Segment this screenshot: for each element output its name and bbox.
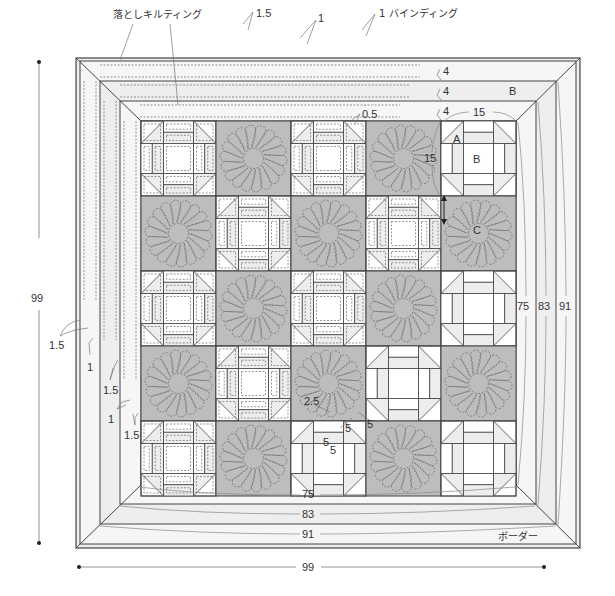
quilt-block (291, 121, 366, 196)
dim-quilt-5-a: 5 (345, 422, 351, 434)
dim-left-1-5-a: 1.5 (49, 339, 64, 351)
quilt-block (216, 271, 291, 346)
dim-left-1-b: 1 (108, 413, 114, 425)
dim-quilt-5-d: 5 (367, 418, 373, 430)
dim-inner-83: 83 (302, 508, 314, 520)
dim-right-83: 83 (538, 300, 550, 312)
quilt-block (216, 421, 291, 496)
dim-inner-91: 91 (302, 528, 314, 540)
border-label: ボーダー (498, 530, 538, 542)
dim-left-1-5-b: 1.5 (103, 384, 118, 396)
quilt-block (141, 346, 216, 421)
quilt-block (366, 421, 441, 496)
quilt-block (291, 271, 366, 346)
quilt-block (216, 346, 291, 421)
dim-border-width-1: 4 (443, 65, 449, 77)
dim-block-height: 15 (424, 152, 436, 164)
dim-top-1: 1 (318, 12, 324, 24)
quilt-block (216, 196, 291, 271)
ditch-quilting-label: 落としキルティング (113, 8, 202, 20)
dim-right-75: 75 (517, 300, 529, 312)
quilt-block (216, 121, 291, 196)
quilt-block (441, 271, 516, 346)
dim-overall-width: 99 (302, 561, 314, 573)
quilt-block (291, 421, 366, 496)
quilt-diagram: 落としキルティング 1.5 1 1 バインディング 4 4 4 B 0.5 15… (0, 0, 615, 596)
dim-border-width-2: 4 (443, 85, 449, 97)
quilt-block (366, 196, 441, 271)
quilt-block (441, 421, 516, 496)
dim-quilt-5-b: 5 (323, 436, 329, 448)
quilt-block (141, 421, 216, 496)
piece-a-label: A (453, 133, 461, 145)
dim-block-width: 15 (473, 106, 485, 118)
border-b-label: B (509, 85, 516, 97)
dim-quilt-5-c: 5 (330, 444, 336, 456)
piece-c-label: C (473, 224, 481, 236)
quilt-block (141, 121, 216, 196)
dim-left-1-5-c: 1.5 (124, 429, 139, 441)
dim-overall-height: 99 (31, 292, 43, 304)
quilt-block (291, 196, 366, 271)
quilt-block (141, 196, 216, 271)
dim-seam-0-5: 0.5 (362, 108, 377, 120)
piece-b-label: B (473, 153, 480, 165)
binding-label: 1 バインディング (379, 7, 458, 19)
quilt-block (441, 346, 516, 421)
quilt-block (291, 346, 366, 421)
dim-right-91: 91 (559, 300, 571, 312)
dim-border-width-3: 4 (443, 105, 449, 117)
dim-top-1-5: 1.5 (256, 7, 271, 19)
quilt-block (366, 271, 441, 346)
dim-quilt-2-5: 2.5 (304, 395, 319, 407)
dim-inner-75: 75 (302, 488, 314, 500)
quilt-block (141, 271, 216, 346)
quilt-block (366, 346, 441, 421)
dim-left-1-a: 1 (87, 361, 93, 373)
